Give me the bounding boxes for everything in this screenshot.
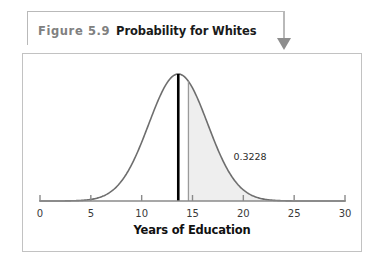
figure-number: Figure 5.9 [38, 24, 110, 38]
x-axis-title: Years of Education [133, 223, 250, 237]
figure-caption: Figure 5.9Probability for Whites [38, 22, 256, 38]
figure-title: Probability for Whites [116, 24, 256, 38]
x-axis-tick-label: 30 [339, 208, 352, 219]
x-axis-tick-label: 5 [88, 208, 94, 219]
x-axis-tick-label: 20 [237, 208, 250, 219]
x-axis-tick-label: 25 [288, 208, 301, 219]
area-probability-label: 0.3228 [233, 151, 266, 162]
caption-callout-drop-line [283, 11, 285, 40]
down-triangle-arrow-icon [277, 38, 291, 50]
x-axis-tick-label: 15 [186, 208, 199, 219]
x-axis-tick-label: 0 [37, 208, 43, 219]
x-axis-tick-label: 10 [135, 208, 148, 219]
